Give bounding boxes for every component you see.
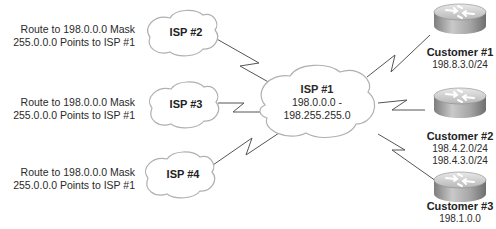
customer3-name: Customer #3 [420, 200, 496, 213]
router-icon-customer1 [434, 4, 486, 34]
link-isp1-cust2 [378, 100, 425, 110]
router-icon-customer3 [434, 172, 486, 202]
isp1-label: ISP #1 198.0.0.0 - 198.255.255.0 [270, 83, 364, 122]
customer2-net-2: 198.4.3.0/24 [420, 155, 496, 167]
customer2-net-1: 198.4.2.0/24 [420, 143, 496, 155]
isp4-label: ISP #4 [163, 168, 203, 180]
customer1-name: Customer #1 [420, 46, 496, 59]
link-isp3-isp1 [218, 103, 262, 112]
isp3-label: ISP #3 [166, 98, 206, 110]
customer2-name: Customer #2 [420, 130, 496, 143]
route-label-isp3: Route to 198.0.0.0 Mask 255.0.0.0 Points… [13, 96, 135, 122]
customer1-label: Customer #1 198.8.3.0/24 [420, 46, 496, 71]
customer2-label: Customer #2 198.4.2.0/24 198.4.3.0/24 [420, 130, 496, 167]
link-isp2-isp1 [215, 38, 272, 84]
isp2-label: ISP #2 [166, 26, 206, 38]
route-label-isp2: Route to 198.0.0.0 Mask 255.0.0.0 Points… [13, 23, 135, 49]
isp1-name: ISP #1 [270, 83, 364, 96]
isp1-range-start: 198.0.0.0 - [270, 96, 364, 109]
customer3-label: Customer #3 198.1.0.0 [420, 200, 496, 225]
customer3-net: 198.1.0.0 [420, 213, 496, 225]
link-isp4-isp1 [213, 131, 282, 165]
isp1-range-end: 198.255.255.0 [270, 109, 364, 122]
route-label-isp4: Route to 198.0.0.0 Mask 255.0.0.0 Points… [13, 166, 135, 192]
customer1-net: 198.8.3.0/24 [420, 59, 496, 71]
router-icon-customer2 [434, 88, 486, 118]
